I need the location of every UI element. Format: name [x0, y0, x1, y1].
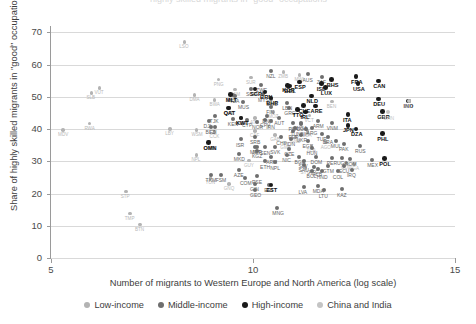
data-point-label: AGO [321, 145, 331, 151]
y-tick-label-20: 20 [16, 189, 42, 198]
data-point-label: ROM [345, 161, 357, 167]
data-point-label: CAN [373, 83, 385, 89]
data-point-label: ARE [311, 108, 323, 114]
data-point-label: CHN [383, 115, 394, 121]
data-point-label: AUS [303, 77, 313, 83]
chart-root: highly skilled migrants in "good" occupa… [0, 0, 476, 324]
data-point-label: NPL [191, 157, 200, 163]
legend-item-high[interactable]: High-income [242, 300, 304, 310]
data-point-label: FSM [216, 177, 227, 183]
data-point-label: TKM [206, 177, 217, 183]
data-point-label: PHL [377, 136, 388, 142]
data-point-label: EST [266, 187, 277, 193]
x-tick-label-15: 15 [440, 265, 470, 275]
y-tick-label-70: 70 [16, 27, 42, 36]
data-point-label: SRB [250, 139, 260, 145]
data-point-label: KWT [236, 120, 249, 126]
x-axis-label: Number of migrants to Western Europe and… [51, 278, 455, 288]
data-point-label: RWA [84, 126, 94, 132]
data-point-label: IRQ [347, 172, 356, 178]
data-point-label: ARM [313, 123, 324, 129]
data-point-label: BWA [210, 102, 220, 108]
data-point-label: BEN [327, 104, 336, 110]
data-point-label: CHE [299, 108, 311, 114]
data-point-label: BHS [327, 82, 339, 88]
legend-item-mid[interactable]: Middle-income [158, 300, 228, 310]
data-point-label: MDV [58, 132, 68, 138]
x-tick-label-10: 10 [238, 265, 268, 275]
data-point-label: ETH [260, 164, 270, 170]
legend-label-high: High-income [252, 300, 304, 310]
data-point-label: COL [333, 174, 343, 180]
data-point-label: ESP [294, 84, 305, 90]
data-point-label: NOR [252, 124, 263, 130]
legend-swatch-low [84, 302, 90, 308]
data-point-label: PAK [339, 146, 349, 152]
data-point-label: ISR [236, 142, 244, 148]
data-point-label: ITA [343, 117, 352, 123]
data-point-label: PNG [214, 82, 224, 88]
data-point-label: NLD [307, 98, 319, 104]
data-point-label: HND [317, 174, 328, 180]
data-point-label: GNQ [224, 186, 234, 192]
legend-swatch-mid [158, 302, 164, 308]
data-point-label: POL [379, 161, 391, 167]
data-point-label: DEU [373, 101, 385, 107]
data-point-label: NZL [266, 73, 275, 79]
legend-item-ci[interactable]: China and India [317, 300, 391, 310]
x-tick-mark-15 [455, 259, 456, 263]
data-point-label: BHR [266, 100, 278, 106]
data-point-label: DZA [351, 131, 363, 137]
y-tick-label-40: 40 [16, 124, 42, 133]
data-point-label: SAU [299, 167, 309, 173]
legend-swatch-ci [317, 302, 323, 308]
data-point-label: TMP [125, 216, 135, 222]
x-tick-label-5: 5 [36, 265, 66, 275]
data-point-label: MLT [226, 97, 237, 103]
data-point-label: NPL [270, 165, 280, 171]
data-point-label: LBY [165, 131, 174, 137]
data-point-label: SGP [250, 91, 262, 97]
data-point-label: GEO [250, 192, 261, 198]
data-point-label: LSO [179, 44, 188, 50]
data-point-label: ZMB [278, 74, 288, 80]
data-point-label: IRN [266, 124, 275, 130]
data-point-label: BTN [135, 227, 144, 233]
data-point-label: KAZ [337, 192, 347, 198]
data-point-label: STP [121, 194, 130, 200]
data-point-label: RUS [355, 148, 366, 154]
legend: Low-incomeMiddle-incomeHigh-incomeChina … [0, 300, 476, 310]
data-point-label: OMN [204, 145, 217, 151]
legend-label-ci: China and India [327, 300, 391, 310]
data-point-label: BLZ [206, 129, 215, 135]
x-tick-mark-10 [253, 259, 254, 263]
y-tick-label-30: 30 [16, 156, 42, 165]
y-tick-label-50: 50 [16, 92, 42, 101]
y-tick-label-0: 0 [16, 253, 42, 262]
data-point-label: MUS [238, 104, 249, 110]
cutoff-title: highly skilled migrants in "good" occupa… [150, 0, 450, 4]
data-point-label: SUR [246, 80, 256, 86]
y-tick-label-10: 10 [16, 221, 42, 230]
data-point-label: GUY [244, 163, 254, 169]
data-point-label: QAT [224, 110, 235, 116]
data-point-label: VNM [327, 125, 338, 131]
data-point-label: MKD [234, 156, 245, 162]
data-point-label: LVA [299, 189, 308, 195]
data-point-label: MEX [367, 162, 378, 168]
legend-label-mid: Middle-income [168, 300, 228, 310]
data-point-label: VUT [94, 90, 103, 96]
data-point-label: LTU [319, 193, 328, 199]
legend-swatch-high [242, 302, 248, 308]
data-point-label: CHL [276, 140, 286, 146]
data-point-label: MNG [272, 210, 284, 216]
data-point-label: BOL [307, 173, 317, 179]
data-point-label: AUT [274, 120, 284, 126]
data-point-label: LUX [321, 90, 332, 96]
data-point-label: BIH [301, 131, 309, 137]
data-point-label: KOR [282, 87, 294, 93]
legend-item-low[interactable]: Low-income [84, 300, 144, 310]
data-point-label: SLB [86, 95, 95, 101]
data-point-label: NIC [282, 157, 291, 163]
legend-label-low: Low-income [94, 300, 144, 310]
